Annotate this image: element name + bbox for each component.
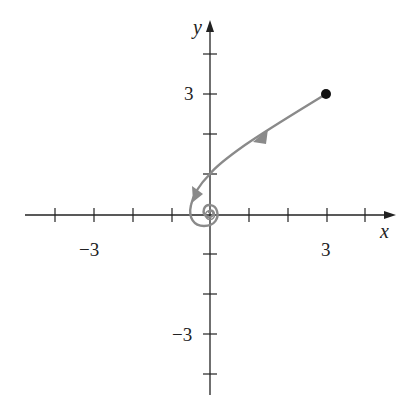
direction-arrow-icon bbox=[253, 129, 268, 144]
y-axis-label: y bbox=[191, 16, 202, 39]
x-tick-label-3: 3 bbox=[321, 239, 331, 260]
y-tick-label-neg3: −3 bbox=[172, 324, 192, 345]
phase-plane-plot: y x −3 3 3 −3 bbox=[0, 0, 411, 409]
y-axis-arrow-icon bbox=[206, 20, 214, 32]
x-axis-arrow-icon bbox=[384, 211, 396, 219]
x-tick-label-neg3: −3 bbox=[79, 239, 99, 260]
x-axis-label: x bbox=[379, 220, 389, 242]
initial-point-marker bbox=[321, 89, 331, 99]
y-tick-label-3: 3 bbox=[184, 83, 194, 104]
